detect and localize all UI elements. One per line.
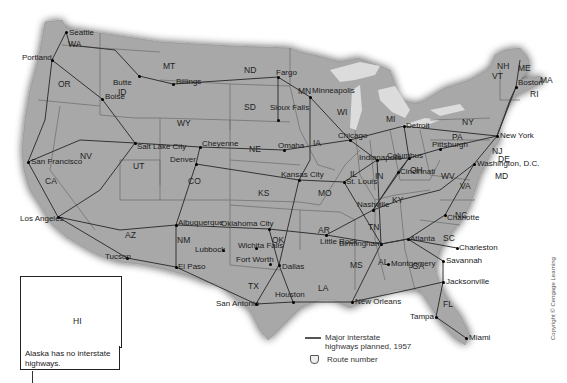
city-label: Omaha: [278, 142, 304, 150]
city-label: San Antonio: [216, 300, 259, 308]
state-label: MS: [350, 261, 363, 270]
city-dot-icon: [309, 96, 312, 99]
state-label: TX: [248, 282, 259, 291]
state-label: MT: [163, 62, 175, 71]
city-dot-icon: [268, 228, 271, 231]
city-label: Wichita Falls: [238, 242, 283, 250]
state-label: ME: [518, 64, 531, 73]
city-label: Oklahoma City: [221, 220, 273, 228]
city-label: Miami: [469, 334, 490, 342]
state-label: SD: [244, 103, 256, 112]
city-label: Boston: [518, 79, 543, 87]
state-label: UT: [133, 162, 144, 171]
city-dot-icon: [351, 301, 354, 304]
hawaii-inset: HI: [20, 276, 122, 348]
state-label: WV: [441, 172, 455, 181]
city-dot-icon: [138, 75, 141, 78]
city-label: Portland: [22, 54, 52, 62]
state-label: WI: [337, 108, 347, 117]
city-label: Charlotte: [447, 214, 479, 222]
city-dot-icon: [278, 264, 281, 267]
state-label: FL: [443, 300, 453, 309]
city-dot-icon: [65, 31, 68, 34]
city-label: Lubbock: [195, 246, 225, 254]
state-label: WY: [177, 119, 191, 128]
city-label: New Orleans: [355, 298, 401, 306]
state-label: ND: [244, 66, 256, 75]
city-label: Montgomery: [391, 260, 435, 268]
city-label: Boise: [105, 93, 125, 101]
city-dot-icon: [298, 179, 301, 182]
city-dot-icon: [372, 209, 375, 212]
state-label: KY: [392, 196, 403, 205]
city-label: Birmingham: [339, 240, 382, 248]
city-label: El Paso: [178, 263, 206, 271]
state-label: NH: [497, 62, 509, 71]
city-label: Sioux Falls: [270, 104, 309, 112]
city-dot-icon: [442, 281, 445, 284]
city-dot-icon: [496, 135, 499, 138]
city-label: Detroit: [406, 122, 430, 130]
route-shield-icon: [310, 355, 319, 364]
state-label: MO: [318, 189, 332, 198]
city-label: Fargo: [276, 69, 297, 77]
city-dot-icon: [387, 263, 390, 266]
state-label: NE: [249, 145, 261, 154]
city-label: Savannah: [446, 257, 482, 265]
city-label: Dallas: [282, 263, 304, 271]
city-label: Billings: [176, 78, 201, 86]
state-label: NY: [462, 118, 474, 127]
map-legend: Major interstate highways planned, 1957 …: [305, 333, 415, 368]
city-label: Cheyenne: [202, 140, 238, 148]
city-dot-icon: [172, 83, 175, 86]
legend-highway-row: Major interstate highways planned, 1957: [305, 333, 415, 351]
city-label: Tucson: [105, 253, 131, 261]
city-label: Chicago: [338, 132, 367, 140]
state-label: CO: [188, 177, 201, 186]
city-dot-icon: [442, 260, 445, 263]
city-dot-icon: [465, 337, 468, 340]
city-dot-icon: [292, 301, 295, 304]
state-label: KS: [258, 189, 269, 198]
city-label: Jacksonville: [446, 278, 489, 286]
copyright-notice: Copyright © Cengage Learning: [550, 257, 556, 340]
city-label: Salt Lake City: [137, 143, 186, 151]
city-label: Columbus: [387, 152, 423, 160]
city-label: Nashville: [357, 201, 389, 209]
city-label: Atlanta: [410, 235, 435, 243]
city-label: San Francisco: [31, 158, 82, 166]
state-label: VT: [492, 72, 503, 81]
city-label: Minneapolis: [312, 87, 355, 95]
state-label: TN: [368, 223, 379, 232]
highway-line-icon: [305, 337, 321, 339]
city-label: Cincinnati: [400, 168, 435, 176]
city-dot-icon: [435, 316, 438, 319]
hawaii-state-label: HI: [73, 317, 82, 326]
city-label: Charleston: [459, 244, 498, 252]
state-label: AR: [318, 226, 330, 235]
alaska-note: Alaska has no interstate highways.: [20, 346, 120, 370]
state-label: AZ: [125, 231, 136, 240]
city-label: Tampa: [410, 313, 434, 321]
state-label: RI: [530, 90, 539, 99]
city-label: Denver: [170, 156, 196, 164]
state-label: VA: [460, 182, 471, 191]
state-label: MI: [386, 115, 395, 124]
state-label: NM: [177, 236, 190, 245]
city-label: Albuquerque: [178, 219, 223, 227]
city-label: Seattle: [69, 29, 94, 37]
city-dot-icon: [277, 119, 280, 122]
city-label: Fort Worth: [236, 256, 274, 264]
city-label: Los Angeles: [20, 215, 64, 223]
city-label: Washington, D.C.: [477, 160, 539, 168]
state-label: MN: [298, 87, 311, 96]
legend-route-label: Route number: [327, 355, 378, 364]
state-label: WA: [68, 40, 81, 49]
legend-highway-label: Major interstate highways planned, 1957: [325, 333, 415, 351]
city-label: Butte: [113, 79, 132, 87]
state-label: IA: [313, 139, 321, 148]
state-label: OR: [58, 80, 71, 89]
state-label: MD: [495, 172, 508, 181]
city-label: Kansas City: [281, 171, 324, 179]
state-label: CA: [45, 177, 57, 186]
